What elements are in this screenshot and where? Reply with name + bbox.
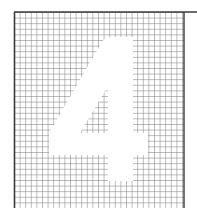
grid-canvas (0, 0, 197, 208)
grid-numeral-figure: 4 (0, 0, 197, 208)
grid-pattern (14, 12, 184, 208)
